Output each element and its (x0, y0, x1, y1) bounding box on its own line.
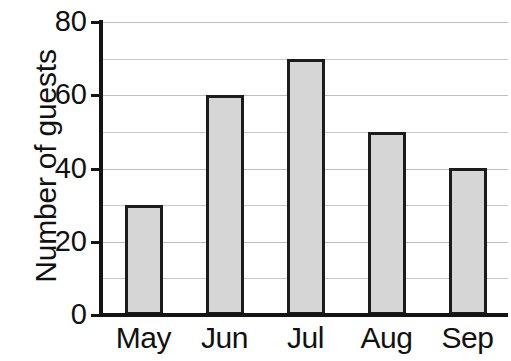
y-axis-tick-mark (91, 168, 103, 171)
bar-jul (287, 59, 325, 315)
y-axis-tick-mark (91, 241, 103, 244)
x-axis-tick-labels: MayJunJulAugSep (103, 320, 508, 361)
x-axis-spine (99, 313, 508, 317)
bar-jun (206, 95, 244, 315)
plot-area (103, 22, 508, 315)
bar-may (125, 205, 163, 315)
gridline (103, 22, 508, 23)
x-axis-tick-label: Sep (427, 320, 508, 356)
x-axis-tick-label: Jun (184, 320, 265, 356)
x-axis-tick-label: Jul (265, 320, 346, 356)
y-axis-tick-label: 0 (35, 300, 87, 329)
y-axis-tick-label: 40 (35, 154, 87, 183)
bar-aug (368, 132, 406, 315)
y-axis-tick-label: 60 (35, 80, 87, 109)
y-axis-tick-mark (91, 314, 103, 317)
x-axis-tick-label: Aug (346, 320, 427, 356)
y-axis-tick-mark (91, 21, 103, 24)
bar-chart-figure: Number of guests 020406080 MayJunJulAugS… (0, 0, 511, 361)
y-axis-tick-labels: 020406080 (29, 0, 87, 361)
y-axis-tick-mark (91, 94, 103, 97)
y-axis-tick-label: 80 (35, 7, 87, 36)
x-axis-tick-label: May (103, 320, 184, 356)
bar-sep (449, 168, 487, 315)
y-axis-tick-label: 20 (35, 227, 87, 256)
